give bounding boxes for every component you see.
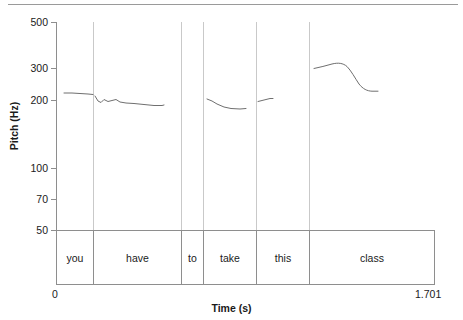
y-axis-label-50: 50 (0, 225, 48, 235)
y-axis-label-300: 300 (0, 63, 48, 73)
word-label-take: take (220, 252, 240, 264)
word-band-right-border (434, 230, 435, 285)
contour-segment-class (314, 63, 378, 91)
word-cell-to: to (181, 230, 203, 285)
contour-segment-have (95, 96, 164, 106)
word-cell-take: take (203, 230, 256, 285)
contour-segment-take (207, 99, 246, 109)
word-cell-have: have (93, 230, 181, 285)
word-label-class: class (360, 252, 384, 264)
gridline-word-boundary-2 (181, 22, 182, 230)
y-axis-title: Pitch (Hz) (8, 86, 20, 166)
word-cell-you: you (56, 230, 93, 285)
word-segment-band: you have to take this class (56, 230, 434, 285)
contour-segment-you (64, 93, 93, 95)
gridline-word-boundary-5 (309, 22, 310, 230)
gridline-word-boundary-4 (256, 22, 257, 230)
word-cell-this: this (256, 230, 309, 285)
contour-segment-this (258, 99, 273, 102)
gridline-word-boundary-1 (93, 22, 94, 230)
y-tick-200 (51, 100, 57, 101)
x-axis-title: Time (s) (0, 302, 463, 314)
word-label-to: to (188, 252, 197, 264)
word-label-you: you (67, 252, 84, 264)
y-tick-300 (51, 68, 57, 69)
top-divider-rule (8, 4, 458, 5)
y-axis-label-500: 500 (0, 17, 48, 27)
word-label-this: this (275, 252, 291, 264)
y-tick-500 (51, 22, 57, 23)
word-label-have: have (126, 252, 149, 264)
gridline-word-boundary-3 (203, 22, 204, 230)
pitch-contour-figure: 500 300 200 100 70 50 Pitch (Hz) you (0, 0, 463, 320)
word-cell-class: class (309, 230, 434, 285)
y-tick-100 (51, 168, 57, 169)
x-axis-start-label: 0 (52, 288, 58, 300)
x-axis-end-label: 1.701 (415, 288, 441, 300)
y-tick-70 (51, 199, 57, 200)
y-axis-label-70: 70 (0, 194, 48, 204)
